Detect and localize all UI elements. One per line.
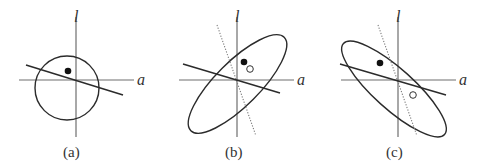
l-axis-label: l: [74, 8, 79, 25]
caption-c: (c): [386, 144, 403, 161]
filled-point: [65, 68, 72, 75]
a-axis-label: a: [137, 71, 145, 88]
a-axis-label: a: [459, 71, 467, 88]
fit-line: [183, 64, 280, 93]
panel-a: l a (a): [19, 8, 145, 161]
caption-a: (a): [63, 144, 80, 161]
filled-point: [241, 59, 248, 66]
ellipse-contour: [330, 29, 458, 150]
figure: l a (a) l a (b) l a (c): [0, 0, 479, 165]
caption-b: (b): [225, 144, 243, 161]
filled-point: [377, 60, 384, 67]
open-point: [410, 92, 417, 99]
circle-contour: [35, 56, 99, 120]
a-axis-label: a: [297, 71, 305, 88]
panel-b: l a (b): [175, 8, 305, 161]
panel-c: l a (c): [330, 8, 467, 161]
open-point: [247, 66, 254, 73]
l-axis-label: l: [235, 8, 240, 25]
l-axis-label: l: [396, 8, 401, 25]
